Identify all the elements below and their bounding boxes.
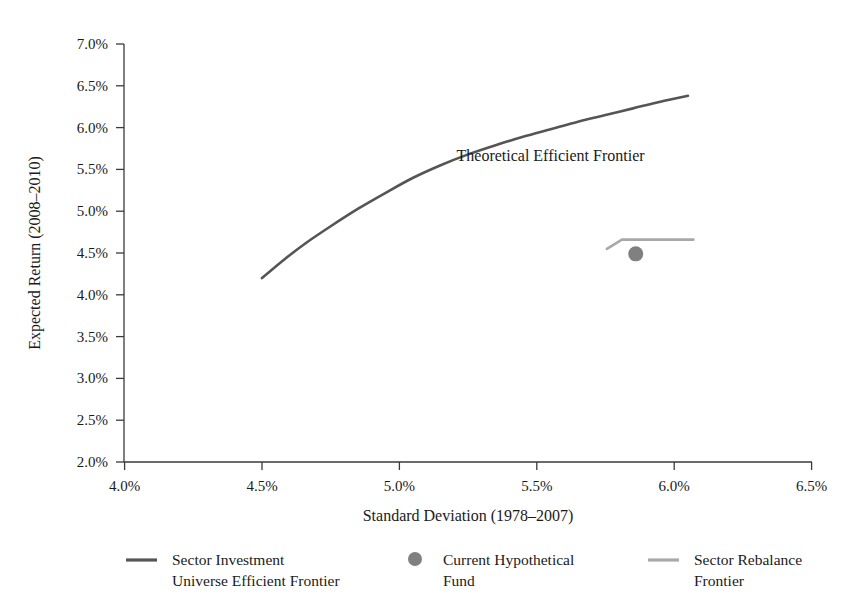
legend-dot-swatch [408,552,422,566]
y-tick-label: 2.5% [77,412,108,428]
legend-item-current-hypothetical-fund: Current Hypothetical Fund [408,551,574,589]
legend-label-line1: Sector Rebalance [694,551,802,568]
y-axis-tick-labels: 2.0% 2.5% 3.0% 3.5% 4.0% 4.5% 5.0% 5.5% … [77,36,108,470]
legend-label-line1: Sector Investment [172,551,285,568]
x-tick-label: 5.0% [384,478,415,494]
chart-legend: Sector Investment Universe Efficient Fro… [126,551,802,589]
x-tick-label: 4.5% [246,478,277,494]
y-tick-label: 5.5% [77,161,108,177]
legend-label-line2: Universe Efficient Frontier [172,572,340,589]
x-axis-title: Standard Deviation (1978–2007) [363,507,574,525]
series-line-sector-rebalance-frontier [607,240,694,249]
annotation-theoretical-efficient-frontier: Theoretical Efficient Frontier [457,147,646,164]
legend-label-line2: Fund [443,572,475,589]
y-axis-title: Expected Return (2008–2010) [26,156,44,350]
y-tick-label: 6.0% [77,120,108,136]
x-tick-label: 4.0% [109,478,140,494]
y-tick-label: 6.5% [77,78,108,94]
x-tick-label: 6.0% [659,478,690,494]
y-tick-label: 3.5% [77,329,108,345]
y-tick-label: 2.0% [77,454,108,470]
chart-canvas: 2.0% 2.5% 3.0% 3.5% 4.0% 4.5% 5.0% 5.5% … [0,0,862,612]
data-point-current-hypothetical-fund [628,246,643,261]
legend-label-line1: Current Hypothetical [443,551,574,568]
x-tick-label: 5.5% [521,478,552,494]
x-axis-tick-labels: 4.0% 4.5% 5.0% 5.5% 6.0% 6.5% [109,478,827,494]
x-axis-ticks [125,462,812,470]
y-tick-label: 7.0% [77,36,108,52]
legend-item-sector-rebalance-frontier: Sector Rebalance Frontier [648,551,802,589]
legend-item-sector-investment-universe-efficient-frontier: Sector Investment Universe Efficient Fro… [126,551,340,589]
y-axis-ticks [116,44,124,462]
series-group [262,96,693,278]
y-tick-label: 4.5% [77,245,108,261]
series-line-sector-investment-universe-efficient-frontier [262,96,688,278]
efficient-frontier-chart: 2.0% 2.5% 3.0% 3.5% 4.0% 4.5% 5.0% 5.5% … [0,0,862,612]
axes-group [124,44,812,462]
x-tick-label: 6.5% [796,478,827,494]
y-tick-label: 5.0% [77,203,108,219]
y-tick-label: 3.0% [77,370,108,386]
y-tick-label: 4.0% [77,287,108,303]
legend-label-line2: Frontier [694,572,745,589]
